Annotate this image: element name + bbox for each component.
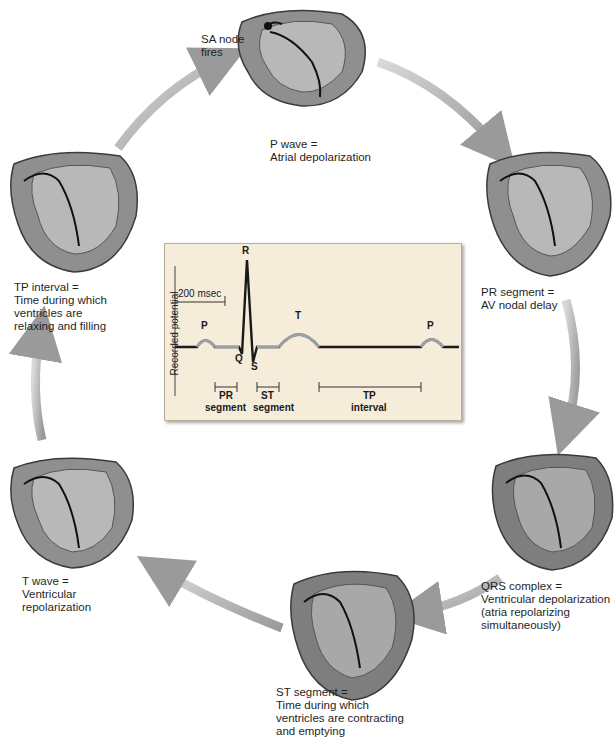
wave-label-p1: P bbox=[201, 320, 208, 331]
arrow-st-to-t bbox=[160, 570, 282, 628]
wave-label-q: Q bbox=[235, 353, 243, 364]
interval-pr-bottom: segment bbox=[205, 402, 246, 413]
heart-pr-segment bbox=[480, 146, 616, 280]
label-p-wave: P wave = Atrial depolarization bbox=[270, 138, 371, 164]
interval-tp-top: TP bbox=[363, 390, 376, 401]
wave-label-s: S bbox=[251, 361, 258, 372]
label-t-wave: T wave = Ventricular repolarization bbox=[22, 575, 91, 614]
arrow-t-to-tp bbox=[35, 332, 42, 440]
interval-st-bottom: segment bbox=[253, 402, 294, 413]
heart-qrs-complex bbox=[486, 448, 616, 574]
heart-t-wave bbox=[4, 452, 140, 572]
label-sa-node: SA node fires bbox=[201, 33, 244, 59]
wave-label-p2: P bbox=[427, 320, 434, 331]
arrow-sa-to-pr bbox=[378, 62, 498, 148]
interval-st-top: ST bbox=[261, 390, 274, 401]
label-tp-interval: TP interval = Time during which ventricl… bbox=[14, 281, 107, 333]
wave-label-t: T bbox=[295, 310, 301, 321]
heart-tp-interval bbox=[4, 146, 144, 276]
interval-pr-top: PR bbox=[219, 390, 233, 401]
ecg-trace bbox=[165, 244, 461, 420]
wave-label-r: R bbox=[242, 245, 249, 256]
heart-sa-node bbox=[222, 2, 382, 112]
heart-st-segment bbox=[282, 564, 422, 704]
interval-tp-bottom: interval bbox=[351, 402, 387, 413]
arrow-tp-to-sa bbox=[118, 60, 222, 148]
scale-bar-label: 200 msec bbox=[178, 288, 221, 299]
arrow-pr-to-qrs bbox=[566, 300, 576, 430]
ecg-panel: Recorded potential 200 msec P R Q S T P … bbox=[164, 243, 462, 421]
label-qrs-complex: QRS complex = Ventricular depolarization… bbox=[481, 580, 610, 632]
label-pr-segment: PR segment = AV nodal delay bbox=[481, 286, 558, 312]
label-st-segment: ST segment = Time during which ventricle… bbox=[276, 686, 404, 738]
